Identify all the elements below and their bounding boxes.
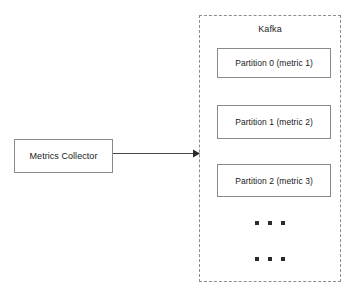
ellipsis-dot-icon	[255, 257, 259, 261]
collector-to-kafka-arrow-icon	[110, 144, 202, 164]
ellipsis-row-2	[200, 257, 340, 261]
metrics-collector-label: Metrics Collector	[30, 151, 98, 161]
ellipsis-dot-icon	[268, 221, 272, 225]
partition-label-2: Partition 2 (metric 3)	[235, 176, 313, 186]
partition-box-1[interactable]: Partition 1 (metric 2)	[217, 105, 331, 139]
partition-box-2[interactable]: Partition 2 (metric 3)	[217, 164, 331, 197]
ellipsis-dot-icon	[255, 221, 259, 225]
metrics-collector-node[interactable]: Metrics Collector	[14, 139, 113, 173]
ellipsis-dot-icon	[281, 257, 285, 261]
partition-box-0[interactable]: Partition 0 (metric 1)	[217, 48, 331, 78]
kafka-group-container: Kafka Partition 0 (metric 1) Partition 1…	[199, 15, 341, 282]
diagram-canvas: Metrics Collector Kafka Partition 0 (met…	[0, 0, 360, 300]
partition-label-0: Partition 0 (metric 1)	[235, 58, 313, 68]
partition-label-1: Partition 1 (metric 2)	[235, 117, 313, 127]
kafka-group-title: Kafka	[200, 24, 340, 35]
ellipsis-row-1	[200, 221, 340, 225]
ellipsis-dot-icon	[268, 257, 272, 261]
ellipsis-dot-icon	[281, 221, 285, 225]
